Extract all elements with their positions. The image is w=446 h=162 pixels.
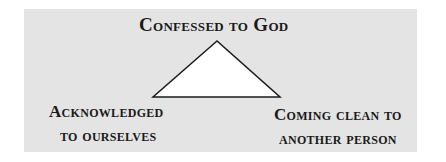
node-coming-clean-line2: another person	[279, 129, 397, 149]
node-coming-clean-line1: Coming clean to	[274, 105, 402, 125]
node-acknowledged-line1: Acknowledged	[49, 102, 164, 122]
node-acknowledged-line2: to ourselves	[60, 126, 157, 146]
node-confessed-to-god: Confessed to God	[139, 14, 288, 36]
